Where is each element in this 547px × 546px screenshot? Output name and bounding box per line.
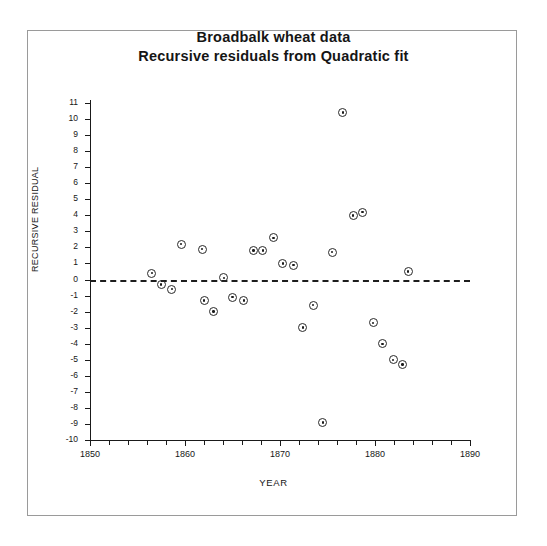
y-tick: -2 xyxy=(85,312,90,313)
data-point xyxy=(200,296,209,305)
y-tick-label: -8 xyxy=(70,402,78,413)
data-point xyxy=(147,269,156,278)
y-tick-label: 9 xyxy=(73,129,78,140)
data-point xyxy=(389,355,398,364)
data-point xyxy=(258,246,267,255)
y-tick: 3 xyxy=(85,231,90,232)
y-tick: 5 xyxy=(85,199,90,200)
x-tick-major xyxy=(90,440,91,446)
y-tick: 9 xyxy=(85,135,90,136)
data-point xyxy=(209,307,218,316)
y-tick-label: -5 xyxy=(70,354,78,365)
y-tick-label: 1 xyxy=(73,257,78,268)
chart-page: Broadbalk wheat data Recursive residuals… xyxy=(0,0,547,546)
y-tick-label: 11 xyxy=(69,97,78,108)
y-tick-label: 4 xyxy=(73,209,78,220)
y-tick-label: -2 xyxy=(70,306,78,317)
y-tick: -7 xyxy=(85,392,90,393)
data-point xyxy=(369,318,378,327)
y-tick-label: -4 xyxy=(70,338,78,349)
data-point xyxy=(318,418,327,427)
x-tick-minor xyxy=(166,440,167,445)
y-tick-label: 8 xyxy=(73,145,78,156)
data-point xyxy=(398,360,407,369)
x-tick-minor xyxy=(432,440,433,445)
x-tick-minor xyxy=(223,440,224,445)
y-tick: 4 xyxy=(85,215,90,216)
y-tick: 6 xyxy=(85,183,90,184)
y-tick: -1 xyxy=(85,296,90,297)
y-tick: -6 xyxy=(85,376,90,377)
x-tick-minor xyxy=(337,440,338,445)
y-tick: 11 xyxy=(85,103,90,104)
x-tick-major xyxy=(185,440,186,446)
y-tick-label: -6 xyxy=(70,370,78,381)
zero-reference-line xyxy=(90,280,470,282)
data-point xyxy=(167,285,176,294)
y-axis-label: RECURSIVE RESIDUAL xyxy=(30,167,40,272)
y-tick-label: -1 xyxy=(70,290,78,301)
y-tick: -4 xyxy=(85,344,90,345)
data-point xyxy=(358,208,367,217)
y-tick: 2 xyxy=(85,247,90,248)
data-point xyxy=(328,248,337,257)
x-tick-major xyxy=(470,440,471,446)
x-tick-label: 1880 xyxy=(365,449,385,460)
chart-subtitle: Recursive residuals from Quadratic fit xyxy=(0,47,547,66)
data-point xyxy=(198,245,207,254)
y-tick: 1 xyxy=(85,263,90,264)
y-tick: -8 xyxy=(85,408,90,409)
x-tick-minor xyxy=(261,440,262,445)
data-point xyxy=(269,233,278,242)
x-tick-minor xyxy=(318,440,319,445)
y-tick-label: 3 xyxy=(73,225,78,236)
page-title: Broadbalk wheat data xyxy=(0,28,547,47)
x-tick-minor xyxy=(451,440,452,445)
data-point xyxy=(298,323,307,332)
chart-title-block: Broadbalk wheat data Recursive residuals… xyxy=(0,28,547,65)
x-tick-minor xyxy=(299,440,300,445)
data-point xyxy=(349,211,358,220)
data-point xyxy=(378,339,387,348)
x-tick-minor xyxy=(109,440,110,445)
data-point xyxy=(177,240,186,249)
data-point xyxy=(239,296,248,305)
x-tick-label: 1890 xyxy=(460,449,480,460)
data-point xyxy=(228,293,237,302)
y-tick: -5 xyxy=(85,360,90,361)
data-point xyxy=(338,108,347,117)
x-tick-label: 1850 xyxy=(80,449,100,460)
y-tick: 8 xyxy=(85,151,90,152)
data-point xyxy=(249,246,258,255)
y-tick-label: -9 xyxy=(70,418,78,429)
y-tick-label: -10 xyxy=(66,434,78,445)
y-tick-label: 0 xyxy=(73,274,78,285)
y-tick: 10 xyxy=(85,119,90,120)
y-tick-label: 2 xyxy=(73,241,78,252)
y-tick-label: -3 xyxy=(70,322,78,333)
x-tick-minor xyxy=(147,440,148,445)
x-tick-minor xyxy=(128,440,129,445)
x-tick-major xyxy=(375,440,376,446)
plot-area: 11109876543210-1-2-3-4-5-6-7-8-9-10 1850… xyxy=(90,103,470,440)
x-tick-minor xyxy=(356,440,357,445)
x-tick-minor xyxy=(413,440,414,445)
data-point xyxy=(289,261,298,270)
data-point xyxy=(309,301,318,310)
data-point xyxy=(404,267,413,276)
x-tick-minor xyxy=(242,440,243,445)
y-tick: -9 xyxy=(85,424,90,425)
y-tick-label: 7 xyxy=(73,161,78,172)
x-tick-major xyxy=(280,440,281,446)
y-tick-label: 5 xyxy=(73,193,78,204)
y-tick: 7 xyxy=(85,167,90,168)
x-axis-label: YEAR xyxy=(0,477,547,488)
y-tick-label: 10 xyxy=(69,113,78,124)
x-tick-minor xyxy=(394,440,395,445)
data-point xyxy=(278,259,287,268)
x-tick-minor xyxy=(204,440,205,445)
data-point xyxy=(157,280,166,289)
y-tick-label: -7 xyxy=(70,386,78,397)
x-tick-label: 1860 xyxy=(175,449,195,460)
x-tick-label: 1870 xyxy=(270,449,290,460)
